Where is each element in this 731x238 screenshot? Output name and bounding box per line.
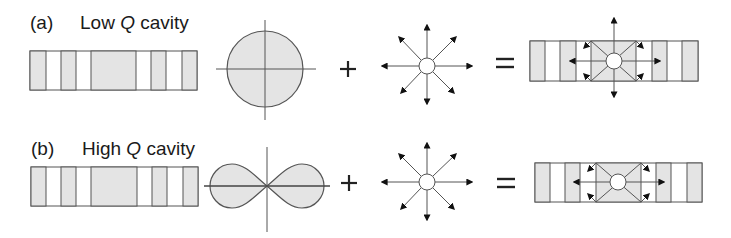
row-a-equals-icon xyxy=(496,59,514,67)
row-b-result-cavity xyxy=(535,163,702,202)
row-a-title-post: cavity xyxy=(135,12,189,33)
row-b-title-pre: High xyxy=(82,138,126,159)
row-b-equals-icon xyxy=(497,179,515,187)
row-a-tag: (a) xyxy=(30,12,53,33)
row-b-point-source-icon xyxy=(382,143,472,220)
row-b-tag: (b) xyxy=(31,138,54,159)
row-b-plus-icon xyxy=(341,175,357,191)
row-a-point-source-icon xyxy=(382,25,472,104)
row-a-title-q: Q xyxy=(120,12,135,33)
cavity-emission-diagram: (a) Low Q cavity xyxy=(0,0,731,238)
row-a-cavity-bar xyxy=(30,51,197,90)
row-b-lobe-pattern-icon xyxy=(204,147,330,232)
row-a-result-cavity xyxy=(530,18,698,97)
row-a-plus-icon xyxy=(340,61,356,77)
row-a-isotropic-pattern-icon xyxy=(216,20,316,120)
row-a-title-pre: Low xyxy=(80,12,120,33)
row-b-cavity-bar xyxy=(31,167,198,206)
row-b-title-post: cavity xyxy=(141,138,195,159)
row-a-title: Low Q cavity xyxy=(80,12,189,33)
row-b-title: High Q cavity xyxy=(82,138,195,159)
row-a: (a) Low Q cavity xyxy=(30,12,698,120)
row-b: (b) High Q cavity xyxy=(31,138,702,232)
row-b-title-q: Q xyxy=(126,138,141,159)
